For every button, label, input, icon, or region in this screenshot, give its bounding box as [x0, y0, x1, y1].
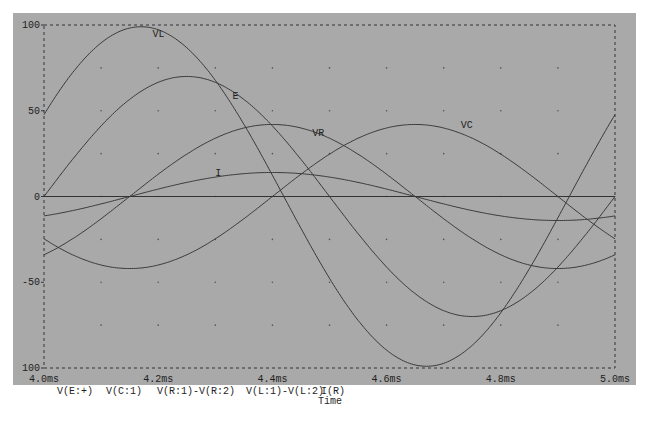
grid-dot: [500, 110, 502, 112]
grid-dot: [386, 67, 388, 69]
waveform-chart: 100500-501004.0ms4.2ms4.4ms4.6ms4.8ms5.0…: [0, 0, 648, 426]
grid-dot: [500, 239, 502, 241]
grid-dot: [272, 153, 274, 155]
grid-dot: [443, 67, 445, 69]
grid-dot: [500, 67, 502, 69]
grid-dot: [443, 110, 445, 112]
y-tick-label: 100: [22, 363, 40, 374]
grid-dot: [557, 324, 559, 326]
grid-dot: [100, 324, 102, 326]
x-tick-label: 4.0ms: [29, 374, 59, 385]
grid-dot: [272, 281, 274, 283]
curve-label-vr: VR: [312, 128, 324, 139]
grid-dot: [272, 67, 274, 69]
grid-dot: [157, 153, 159, 155]
grid-dot: [557, 239, 559, 241]
grid-dot: [443, 324, 445, 326]
curve-label-i: I: [215, 168, 221, 179]
grid-dot: [215, 153, 217, 155]
grid-dot: [443, 239, 445, 241]
grid-dot: [386, 281, 388, 283]
grid-dot: [557, 110, 559, 112]
grid-dot: [272, 324, 274, 326]
x-tick-label: 5.0ms: [600, 374, 630, 385]
grid-dot: [215, 324, 217, 326]
grid-dot: [157, 324, 159, 326]
grid-dot: [443, 153, 445, 155]
grid-dot: [386, 324, 388, 326]
legend-item: V(C:1): [106, 386, 142, 397]
y-tick-label: 100: [22, 20, 40, 31]
curve-label-e: E: [232, 91, 238, 102]
legend-item: V(R:1)-V(R:2): [157, 386, 235, 397]
grid-dot: [329, 239, 331, 241]
grid-dot: [157, 67, 159, 69]
x-tick-label: 4.6ms: [372, 374, 402, 385]
grid-dot: [272, 239, 274, 241]
grid-dot: [100, 67, 102, 69]
grid-dot: [329, 324, 331, 326]
grid-dot: [215, 281, 217, 283]
grid-dot: [272, 110, 274, 112]
grid-dot: [329, 110, 331, 112]
grid-dot: [215, 110, 217, 112]
grid-dot: [100, 239, 102, 241]
grid-dot: [100, 281, 102, 283]
legend-item: V(E:+): [57, 386, 93, 397]
grid-dot: [100, 153, 102, 155]
grid-dot: [157, 239, 159, 241]
grid-dot: [386, 153, 388, 155]
grid-dot: [215, 67, 217, 69]
x-tick-label: 4.8ms: [486, 374, 516, 385]
x-tick-label: 4.4ms: [257, 374, 287, 385]
y-tick-label: -50: [22, 277, 40, 288]
grid-dot: [386, 239, 388, 241]
curve-label-vl: VL: [152, 29, 164, 40]
grid-dot: [100, 110, 102, 112]
grid-dot: [500, 324, 502, 326]
legend-item: V(L:1)-V(L:2): [246, 386, 324, 397]
grid-dot: [557, 281, 559, 283]
grid-dot: [557, 67, 559, 69]
x-axis-title: Time: [318, 396, 342, 407]
grid-dot: [443, 281, 445, 283]
grid-dot: [329, 281, 331, 283]
grid-dot: [500, 281, 502, 283]
grid-dot: [157, 281, 159, 283]
y-tick-label: 0: [34, 192, 40, 203]
curve-label-vc: VC: [461, 120, 473, 131]
grid-dot: [557, 153, 559, 155]
grid-dot: [386, 110, 388, 112]
grid-dot: [329, 67, 331, 69]
x-tick-label: 4.2ms: [143, 374, 173, 385]
y-tick-label: 50: [28, 106, 40, 117]
grid-dot: [157, 110, 159, 112]
